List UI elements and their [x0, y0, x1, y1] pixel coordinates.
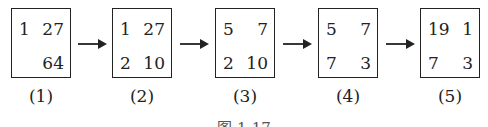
- cell-top-right: 7: [257, 21, 268, 38]
- cell-top-left: 5: [326, 21, 337, 38]
- grid-box-3: 5 7 2 10: [215, 8, 275, 78]
- cell-top-left: 19: [428, 21, 450, 38]
- cell-top-left: 1: [19, 21, 30, 38]
- cell-bottom-left: 2: [223, 55, 234, 72]
- cell-bottom-left: 7: [326, 55, 337, 72]
- right-arrow-icon: [386, 38, 416, 50]
- cell-top-left: 1: [120, 21, 131, 38]
- step-label-1: (1): [6, 86, 76, 106]
- cell-bottom-right: 3: [360, 55, 371, 72]
- right-arrow-icon: [180, 38, 210, 50]
- cell-bottom-right: 64: [42, 55, 64, 72]
- grid-box-4: 5 7 7 3: [318, 8, 378, 78]
- step-label-4: (4): [313, 86, 383, 106]
- step-label-5: (5): [415, 86, 485, 106]
- cell-top-right: 7: [360, 21, 371, 38]
- cell-bottom-right: 10: [246, 55, 268, 72]
- cell-top-left: 5: [223, 21, 234, 38]
- step-label-3: (3): [210, 86, 280, 106]
- grid-box-5: 19 1 7 3: [420, 8, 480, 78]
- grid-box-1: 1 27 64: [11, 8, 71, 78]
- cell-bottom-left: 2: [120, 55, 131, 72]
- step-label-2: (2): [107, 86, 177, 106]
- grid-box-2: 1 27 2 10: [112, 8, 172, 78]
- figure-caption: 图 1-17: [0, 116, 488, 127]
- cell-bottom-right: 10: [143, 55, 165, 72]
- cell-bottom-right: 3: [462, 55, 473, 72]
- cell-top-right: 1: [462, 21, 473, 38]
- cell-top-right: 27: [42, 21, 64, 38]
- right-arrow-icon: [283, 38, 313, 50]
- cell-bottom-left: 7: [428, 55, 439, 72]
- cell-top-right: 27: [143, 21, 165, 38]
- right-arrow-icon: [78, 38, 108, 50]
